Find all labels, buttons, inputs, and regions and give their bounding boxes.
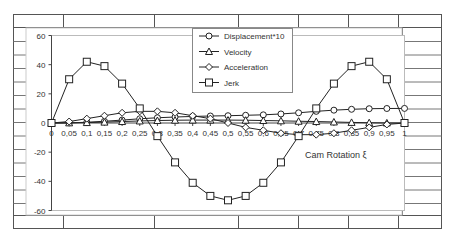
x-axis-label: Cam Rotation ξ — [305, 150, 367, 160]
x-tick-label: 0,35 — [167, 129, 183, 138]
y-tick-label: -40 — [34, 177, 46, 186]
x-tick-label: 1 — [402, 129, 407, 138]
x-tick-label: 0 — [49, 129, 54, 138]
y-tick-label: 20 — [37, 90, 46, 99]
legend-label: Velocity — [224, 48, 252, 57]
y-tick-label: -60 — [34, 207, 46, 216]
legend-label: Acceleration — [224, 63, 268, 72]
x-tick-label: 0,2 — [117, 129, 129, 138]
x-tick-label: 0,1 — [81, 129, 93, 138]
x-tick-label: 0,45 — [203, 129, 219, 138]
chart-container: 6040200-20-40-6000,050,10,150,20,250,30,… — [0, 0, 458, 244]
x-tick-label: 0,15 — [97, 129, 113, 138]
legend-item: Acceleration — [199, 63, 268, 72]
x-tick-label: 0,5 — [222, 129, 234, 138]
legend: Displacement*10VelocityAccelerationJerk — [193, 29, 293, 93]
legend-label: Jerk — [224, 79, 240, 88]
y-tick-label: -20 — [34, 148, 46, 157]
x-tick-label: 0,05 — [61, 129, 77, 138]
y-tick-label: 60 — [37, 32, 46, 41]
line-chart: 6040200-20-40-6000,050,10,150,20,250,30,… — [0, 0, 458, 244]
y-tick-label: 0 — [41, 119, 46, 128]
y-tick-label: 40 — [37, 61, 46, 70]
x-tick-label: 0,25 — [132, 129, 148, 138]
x-tick-label: 0,4 — [187, 129, 199, 138]
legend-label: Displacement*10 — [224, 32, 285, 41]
x-tick-label: 0,95 — [379, 129, 395, 138]
